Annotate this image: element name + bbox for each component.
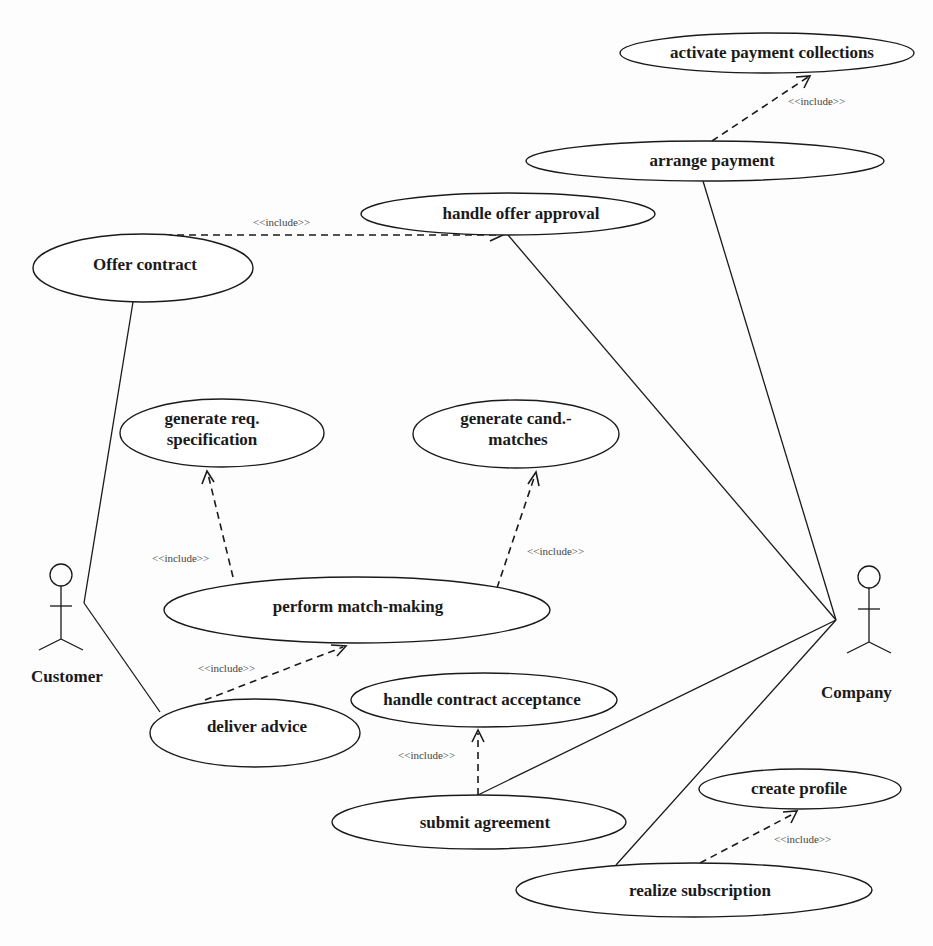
include-label: <<include>>	[398, 749, 455, 761]
use-case-handle-offer-approval[interactable]: handle offer approval	[361, 193, 655, 235]
include-label: <<include>>	[253, 216, 310, 228]
svg-text:deliver advice: deliver advice	[207, 717, 308, 736]
stick-figure-icon	[847, 566, 891, 653]
use-case-handle-contract-acceptance[interactable]: handle contract acceptance	[351, 673, 617, 727]
use-case-activate-payment-collections[interactable]: activate payment collections	[620, 33, 914, 73]
svg-text:arrange payment: arrange payment	[649, 151, 774, 170]
use-case-perform-match-making[interactable]: perform match-making	[164, 577, 550, 643]
svg-text:realize subscription: realize subscription	[629, 881, 771, 900]
use-case-generate-req-specification[interactable]: generate req. specification	[120, 399, 324, 467]
use-case-deliver-advice[interactable]: deliver advice	[150, 699, 360, 767]
svg-text:generate cand.-: generate cand.-	[460, 409, 572, 428]
assoc-customer-deliver-advice	[84, 603, 160, 712]
svg-text:specification: specification	[167, 430, 258, 449]
use-case-generate-cand-matches[interactable]: generate cand.- matches	[413, 400, 619, 468]
assoc-company-arrange-payment	[703, 181, 836, 620]
svg-text:generate req.: generate req.	[164, 409, 259, 428]
svg-text:Company: Company	[821, 683, 892, 702]
include-label: <<include>>	[152, 552, 209, 564]
svg-text:activate payment collections: activate payment collections	[670, 43, 874, 62]
svg-text:handle offer approval: handle offer approval	[442, 204, 599, 223]
actor-company[interactable]: Company	[821, 566, 892, 702]
svg-text:Customer: Customer	[31, 667, 103, 686]
include-arrange-to-activate	[712, 76, 810, 141]
use-case-diagram: activate payment collections arrange pay…	[0, 0, 933, 946]
use-case-submit-agreement[interactable]: submit agreement	[332, 795, 626, 849]
include-label: <<include>>	[788, 95, 845, 107]
use-case-arrange-payment[interactable]: arrange payment	[526, 141, 884, 181]
use-case-create-profile[interactable]: create profile	[699, 769, 901, 809]
svg-text:perform match-making: perform match-making	[273, 597, 444, 616]
actor-customer[interactable]: Customer	[31, 564, 103, 686]
svg-text:submit agreement: submit agreement	[420, 813, 551, 832]
include-label: <<include>>	[774, 833, 831, 845]
assoc-customer-offer-contract	[84, 302, 133, 603]
use-case-offer-contract[interactable]: Offer contract	[33, 234, 253, 302]
stick-figure-icon	[39, 564, 83, 650]
svg-text:handle contract acceptance: handle contract acceptance	[383, 690, 581, 709]
svg-text:matches: matches	[488, 430, 548, 449]
include-matchmaking-to-cand-matches	[497, 472, 539, 588]
assoc-company-realize-subscription	[616, 620, 836, 865]
include-label: <<include>>	[198, 662, 255, 674]
svg-text:Offer contract: Offer contract	[93, 255, 197, 274]
svg-text:create profile: create profile	[751, 779, 848, 798]
include-label: <<include>>	[527, 545, 584, 557]
use-case-realize-subscription[interactable]: realize subscription	[516, 863, 872, 917]
include-submit-to-contract-acceptance	[472, 730, 484, 795]
